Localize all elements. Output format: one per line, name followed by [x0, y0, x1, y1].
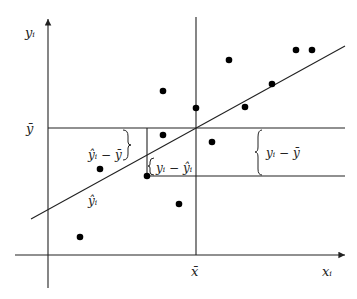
data-point	[242, 104, 249, 111]
regression-diagram: yᵢ xᵢ ȳ x̄ ŷᵢ − ȳ yᵢ − ŷᵢ yᵢ − ȳ ŷᵢ	[0, 0, 357, 299]
residual-label: yᵢ − ŷᵢ	[155, 161, 193, 175]
brace-total	[255, 130, 262, 175]
data-point	[293, 47, 300, 54]
data-point	[176, 201, 183, 208]
data-point	[193, 105, 200, 112]
total-deviation-label: yᵢ − ȳ	[265, 146, 300, 160]
y-axis-label: yᵢ	[24, 25, 35, 40]
y-mean-label: ȳ	[25, 121, 34, 136]
brace-explained	[123, 130, 131, 160]
data-point	[160, 88, 167, 95]
data-point	[309, 47, 316, 54]
data-point	[209, 139, 216, 146]
data-point	[77, 234, 84, 241]
explained-deviation-label: ŷᵢ − ȳ	[87, 148, 122, 162]
x-mean-label: x̄	[191, 264, 199, 279]
data-point	[144, 173, 151, 180]
data-point	[226, 57, 233, 64]
brace-residual	[148, 158, 154, 175]
x-axis-label: xᵢ	[322, 264, 332, 279]
regression-line	[31, 46, 345, 219]
data-point	[97, 166, 104, 173]
data-point	[160, 132, 167, 139]
fitted-value-label: ŷᵢ	[87, 194, 98, 208]
data-point	[269, 81, 276, 88]
